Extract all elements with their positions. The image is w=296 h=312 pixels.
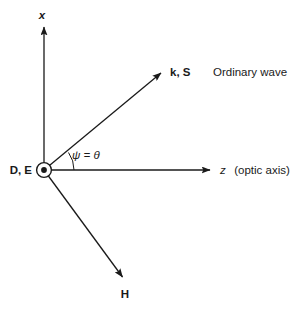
- origin-marker-dot: [41, 167, 47, 173]
- k-s-vector-line: [44, 73, 161, 170]
- origin-label: D, E: [10, 164, 33, 176]
- z-axis-label-group: z (optic axis): [219, 160, 290, 177]
- x-axis-label: x: [38, 9, 46, 21]
- figure-caption: Ordinary wave: [213, 66, 287, 78]
- angle-label: ψ = θ: [72, 149, 100, 161]
- figure-canvas: x D, E ψ = θ k, S H z (optic axis) Ordin…: [0, 0, 296, 312]
- z-axis-note: (optic axis): [234, 164, 290, 176]
- k-s-vector-label: k, S: [170, 66, 191, 78]
- vector-diagram-svg: x D, E ψ = θ k, S H z (optic axis) Ordin…: [0, 0, 296, 312]
- z-axis-symbol: z: [219, 164, 226, 176]
- h-vector-line: [44, 170, 123, 277]
- h-vector-label: H: [121, 288, 129, 300]
